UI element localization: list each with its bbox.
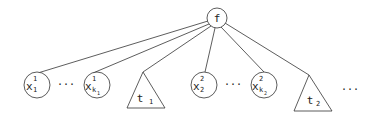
var-subsub: 2 xyxy=(264,90,267,96)
subtree-t1: t 1 xyxy=(127,72,165,108)
subtree-label: t xyxy=(307,94,314,107)
ellipsis: ··· xyxy=(57,79,75,90)
var-sub: 1 xyxy=(33,86,37,94)
edge xyxy=(143,26,211,72)
var-base: x xyxy=(252,80,259,93)
tree-diagram: f x 1 1 ··· x 1 k 1 t 1 x 2 2 ··· x 2 k … xyxy=(0,0,379,123)
leaf-x11: x 1 1 xyxy=(24,72,50,98)
subtree-label: t xyxy=(137,92,144,105)
var-sup: 1 xyxy=(33,75,37,83)
var-base: x xyxy=(193,80,200,93)
root-node: f xyxy=(207,8,227,28)
var-sup: 2 xyxy=(200,75,204,83)
leaf-x2k2: x 2 k 2 xyxy=(251,72,277,98)
leaf-x22: x 2 2 xyxy=(191,72,217,98)
var-subsub: 1 xyxy=(97,90,100,96)
var-base: x xyxy=(26,80,33,93)
subtree-sub: 1 xyxy=(149,98,153,106)
ellipsis: ··· xyxy=(341,84,359,95)
edge xyxy=(225,23,309,75)
subtree-sub: 2 xyxy=(316,100,320,108)
edge xyxy=(93,24,209,73)
edge xyxy=(205,28,215,72)
edge xyxy=(28,21,208,76)
ellipsis: ··· xyxy=(224,79,242,90)
subtree-t2: t 2 xyxy=(294,75,332,111)
leaf-x1k1: x 1 k 1 xyxy=(84,72,110,98)
root-label: f xyxy=(214,12,221,25)
var-base: x xyxy=(85,80,92,93)
var-sup: 2 xyxy=(259,75,263,83)
var-sub: 2 xyxy=(200,86,204,94)
edges xyxy=(28,21,309,76)
var-sup: 1 xyxy=(92,75,96,83)
